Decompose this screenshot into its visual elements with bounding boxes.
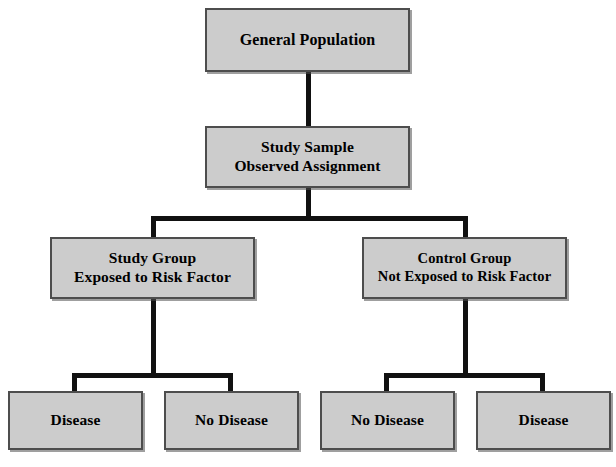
node-outcome-no-disease-unexposed[interactable]: No Disease (320, 391, 455, 450)
node-control-group[interactable]: Control Group Not Exposed to Risk Factor (362, 237, 567, 299)
connector-study-group-branch-bar (72, 373, 233, 378)
node-study-sample[interactable]: Study Sample Observed Assignment (205, 126, 410, 188)
connector-branch-to-outcome-3 (384, 373, 389, 393)
connector-branch-to-control-group (463, 216, 468, 239)
connector-branch-to-outcome-2 (228, 373, 233, 393)
diagram-canvas: General Population Study Sample Observed… (0, 0, 616, 467)
connector-branch-to-outcome-1 (72, 373, 77, 393)
connector-branch-to-study-group (151, 216, 156, 239)
node-outcome-no-disease-exposed-text: No Disease (191, 411, 272, 430)
node-control-group-text: Control Group Not Exposed to Risk Factor (374, 250, 555, 285)
node-outcome-no-disease-exposed[interactable]: No Disease (164, 391, 299, 450)
node-study-sample-text: Study Sample Observed Assignment (230, 138, 384, 176)
node-general-population-text: General Population (236, 30, 380, 50)
connector-sample-branch-bar (152, 216, 468, 221)
node-outcome-disease-exposed[interactable]: Disease (8, 391, 143, 450)
node-outcome-disease-unexposed-text: Disease (515, 411, 573, 430)
connector-control-group-stem (463, 298, 468, 376)
node-study-group[interactable]: Study Group Exposed to Risk Factor (50, 237, 255, 299)
connector-population-to-sample (306, 70, 311, 128)
node-general-population[interactable]: General Population (205, 8, 410, 72)
connector-branch-to-outcome-4 (540, 373, 545, 393)
node-outcome-disease-exposed-text: Disease (47, 411, 105, 430)
node-outcome-disease-unexposed[interactable]: Disease (476, 391, 611, 450)
connector-study-group-stem (151, 298, 156, 376)
connector-control-group-branch-bar (384, 373, 545, 378)
node-study-group-text: Study Group Exposed to Risk Factor (70, 249, 235, 287)
node-outcome-no-disease-unexposed-text: No Disease (347, 411, 428, 430)
